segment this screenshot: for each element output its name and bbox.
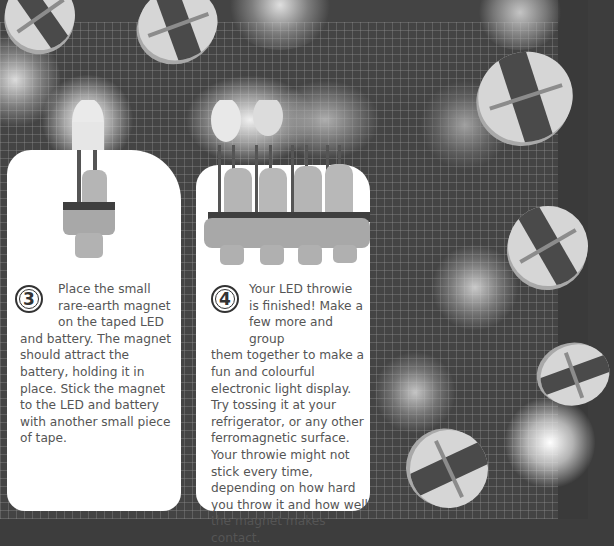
step-4-text: Your LED throwie is finished! Make a few… bbox=[211, 281, 371, 546]
step-3-intro-line: Place the small bbox=[20, 281, 180, 298]
led-glow bbox=[430, 245, 520, 330]
four-led-throwies-illustration bbox=[198, 100, 378, 275]
single-led-throwie-illustration bbox=[55, 100, 125, 270]
step-3-body: and battery. The magnet should attract t… bbox=[20, 332, 171, 446]
step-4-body: them together to make a fun and colourfu… bbox=[211, 348, 368, 545]
step-4-intro-line: few more and group bbox=[211, 314, 371, 347]
step-3-text: Place the small rare-earth magnet on the… bbox=[20, 281, 180, 447]
led-glow bbox=[505, 395, 595, 490]
step-4-intro-line: is finished! Make a bbox=[211, 298, 371, 315]
step-3-intro-line: rare-earth magnet bbox=[20, 298, 180, 315]
step-4-intro-line: Your LED throwie bbox=[211, 281, 371, 298]
led-glow bbox=[375, 350, 455, 435]
step-3-intro-line: on the taped LED bbox=[20, 314, 180, 331]
